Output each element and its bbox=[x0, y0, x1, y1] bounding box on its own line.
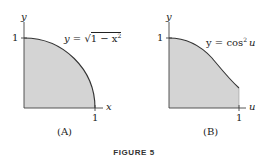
x-tick-label-b: 1 bbox=[236, 112, 242, 123]
figure-caption: FIGURE 5 bbox=[0, 148, 268, 157]
region-a-fill bbox=[24, 38, 95, 108]
equation-b-var: u bbox=[249, 37, 255, 48]
equation-a: y = √1 − x2 bbox=[64, 32, 121, 44]
equation-b-prefix: y = cos bbox=[206, 37, 243, 48]
equation-a-exponent: 2 bbox=[118, 32, 122, 39]
equation-b: y = cos2u bbox=[206, 36, 255, 48]
equation-a-prefix: y = bbox=[64, 33, 84, 44]
x-axis-label-b: u bbox=[249, 101, 255, 112]
y-axis-label-a: y bbox=[21, 11, 27, 22]
figure-canvas bbox=[0, 0, 268, 165]
equation-a-radicand: 1 − x2 bbox=[91, 32, 122, 44]
region-b-fill bbox=[169, 38, 239, 108]
x-tick-label-a: 1 bbox=[92, 112, 98, 123]
y-tick-label-a: 1 bbox=[12, 32, 18, 43]
y-tick-label-b: 1 bbox=[157, 32, 163, 43]
x-axis-label-a: x bbox=[106, 101, 112, 112]
panel-label-a: (A) bbox=[57, 126, 72, 137]
equation-b-exponent: 2 bbox=[243, 36, 247, 43]
panel-label-b: (B) bbox=[203, 126, 218, 137]
y-axis-label-b: y bbox=[166, 11, 172, 22]
